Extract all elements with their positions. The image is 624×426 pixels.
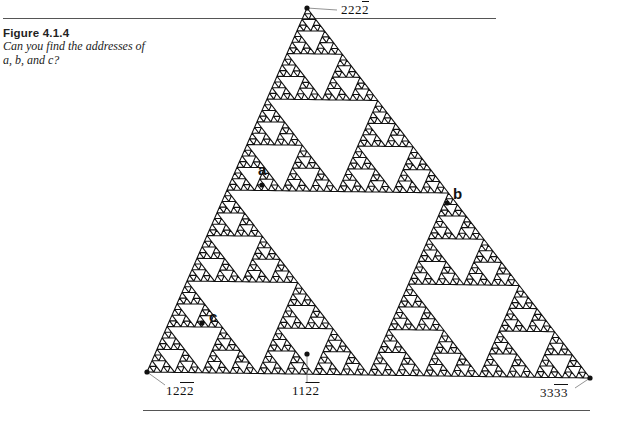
point-dot-b [444,200,449,205]
leader-line-top [307,8,337,10]
sierpinski-figure [0,0,624,426]
leader-line-bottom-left [147,372,165,385]
leader-line-bottom-right [575,378,590,388]
vertex-dot-bottom-right [587,375,592,380]
vertex-dot-middle [304,351,309,356]
bottom-rule [143,410,590,411]
address-repeating-part: 2 [362,2,369,17]
address-prefix: 12 [166,383,180,398]
point-label-a: a [258,161,266,178]
point-label-c: c [209,308,217,325]
address-repeating-part: 22 [306,383,320,398]
point-label-b: b [453,185,462,202]
address-prefix: 11 [292,383,306,398]
address-label-bottom-right: 3333 [540,385,568,401]
address-prefix: 33 [540,385,554,400]
address-prefix: 222 [341,2,362,17]
vertex-dot-bottom-left [144,369,149,374]
address-label-bottom-left: 1222 [166,383,194,399]
point-dot-a [259,182,264,187]
address-repeating-part: 33 [554,385,568,400]
address-label-top: 2222 [341,2,369,18]
address-label-middle: 1122 [292,383,320,399]
vertex-dot-top [304,5,309,10]
address-repeating-part: 22 [180,383,194,398]
point-dot-c [199,320,204,325]
